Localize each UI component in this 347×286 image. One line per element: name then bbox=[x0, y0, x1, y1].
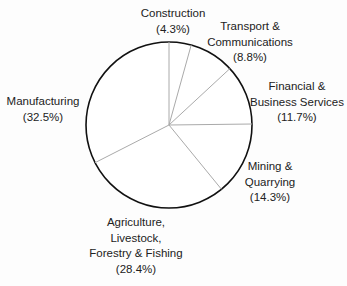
label-text: Mining & bbox=[245, 159, 296, 175]
label-text: Transport & bbox=[207, 19, 293, 35]
label-agriculture: Agriculture, Livestock, Forestry & Fishi… bbox=[89, 215, 182, 277]
label-value: (14.3%) bbox=[245, 190, 296, 206]
label-text: Quarrying bbox=[245, 175, 296, 191]
label-manufacturing: Manufacturing (32.5%) bbox=[7, 94, 80, 125]
label-value: (4.3%) bbox=[141, 22, 206, 38]
label-text: Agriculture, bbox=[89, 215, 182, 231]
label-value: (11.7%) bbox=[250, 110, 344, 126]
label-text: Manufacturing bbox=[7, 94, 80, 110]
label-value: (28.4%) bbox=[89, 262, 182, 278]
label-text: Construction bbox=[141, 6, 206, 22]
label-text: Communications bbox=[207, 35, 293, 51]
label-text: Forestry & Fishing bbox=[89, 246, 182, 262]
label-value: (32.5%) bbox=[7, 110, 80, 126]
label-text: Financial & bbox=[250, 79, 344, 95]
pie-chart: Construction (4.3%) Transport & Communic… bbox=[0, 0, 347, 286]
label-value: (8.8%) bbox=[207, 50, 293, 66]
label-construction: Construction (4.3%) bbox=[141, 6, 206, 37]
label-text: Business Services bbox=[250, 95, 344, 111]
label-text: Livestock, bbox=[89, 231, 182, 247]
label-mining: Mining & Quarrying (14.3%) bbox=[245, 159, 296, 206]
label-financial: Financial & Business Services (11.7%) bbox=[250, 79, 344, 126]
label-transport: Transport & Communications (8.8%) bbox=[207, 19, 293, 66]
